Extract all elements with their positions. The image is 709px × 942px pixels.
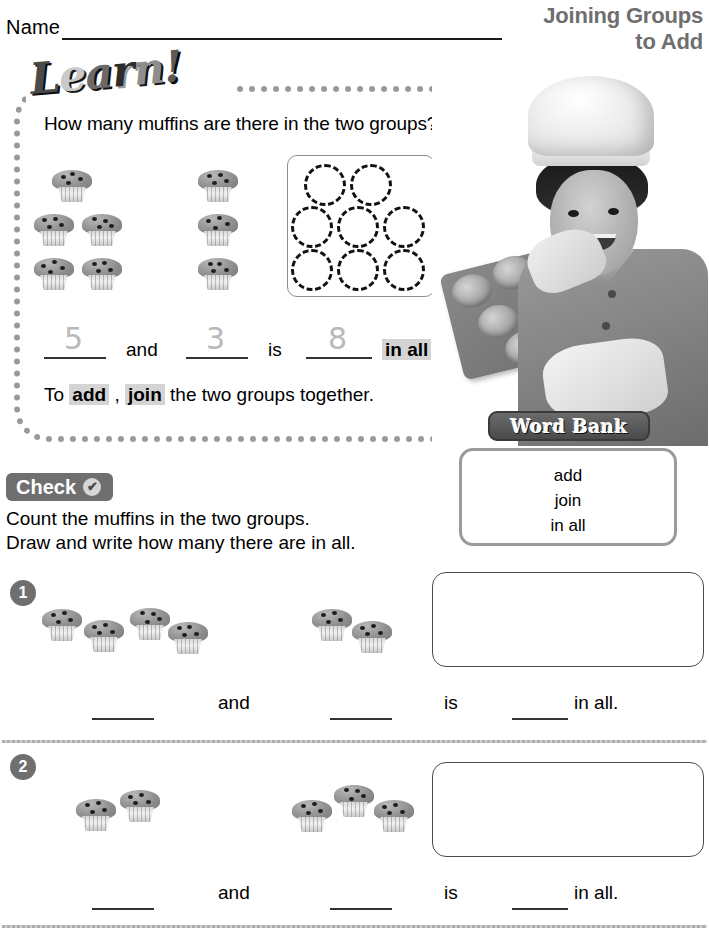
footer-divider [2,925,707,928]
sentence-comma: , [109,384,125,405]
exercise-1-blank-2[interactable] [330,690,392,720]
exercise-2-answer-box[interactable] [432,762,704,857]
word-bank-tab: Word Bank [488,411,650,441]
exercise-2-blank-1[interactable] [92,880,154,910]
check-instruction-line1: Count the muffins in the two groups. [6,508,310,530]
page-title-line1: Joining Groups [443,3,703,29]
section-divider [2,740,707,743]
exercise-number-badge: 1 [10,580,36,606]
dashed-circle-icon [383,206,425,248]
equation-and-label: and [126,339,158,361]
learn-question: How many muffins are there in the two gr… [44,113,437,135]
exercise-1-answer-box[interactable] [432,572,704,667]
muffin-icon [118,788,162,822]
muffin-icon [80,256,124,290]
exercise-2-blank-3[interactable] [512,880,568,910]
worksheet-page: Name Joining Groups to Add Learn! How ma… [0,0,709,942]
muffin-icon [372,798,416,832]
dashed-circle-icon [337,206,379,248]
exercise-1-blank-3[interactable] [512,690,568,720]
sentence-word-add: add [69,384,109,405]
muffin-icon [32,256,76,290]
dashed-circle-icon [383,249,425,291]
check-tab: Check ✔ [6,473,113,501]
muffin-icon [32,212,76,246]
traced-number-2: 3 [206,321,225,356]
page-title: Joining Groups to Add [443,3,703,54]
learn-badge: Learn! [26,52,231,108]
exercise-2-blank-2[interactable] [330,880,392,910]
muffin-icon [196,212,240,246]
muffin-icon [82,618,126,652]
exercise-2-in-all-label: in all. [574,882,618,904]
tenframe-box[interactable] [287,155,435,297]
dashed-circle-icon [304,164,346,206]
muffin-icon [166,620,210,654]
muffin-icon [332,783,376,817]
muffin-icon [196,256,240,290]
checkmark-icon: ✔ [83,478,101,496]
dashed-circle-icon [291,206,333,248]
exercise-1-in-all-label: in all. [574,692,618,714]
traced-number-3: 8 [328,321,347,356]
dashed-circle-icon [291,249,333,291]
muffin-icon [50,168,94,202]
muffin-icon [74,797,118,831]
sentence-word-join: join [125,384,165,405]
word-bank-item: join [462,488,674,513]
page-title-line2: to Add [443,29,703,55]
dashed-circle-icon [337,249,379,291]
exercise-1-is-label: is [444,692,458,714]
check-tab-label: Check [16,473,76,501]
equation-in-all-label: in all. [382,339,437,361]
check-instruction-line2: Draw and write how many there are in all… [6,532,356,554]
muffin-icon [290,798,334,832]
sentence-prefix: To [44,384,69,405]
muffin-icon [40,607,84,641]
learn-sentence: To add , join the two groups together. [44,384,374,406]
learn-equation-row: 5 and 3 is 8 in all. [44,325,444,365]
equation-is-label: is [268,339,282,361]
exercise-1-blank-1[interactable] [92,690,154,720]
exercise-2-is-label: is [444,882,458,904]
exercise-2-and-label: and [218,882,250,904]
muffin-icon [310,607,354,641]
exercise-1-and-label: and [218,692,250,714]
muffin-icon [80,212,124,246]
muffin-icon [350,619,394,653]
word-bank-item: add [462,463,674,488]
sentence-suffix: the two groups together. [165,384,374,405]
exercise-number-badge: 2 [10,754,36,780]
dashed-circle-icon [350,164,392,206]
boy-chef-photo [432,74,709,446]
name-write-line[interactable] [62,38,502,40]
name-label: Name [6,16,60,39]
word-bank-item: in all [462,513,674,538]
learn-badge-text: Learn! [28,41,184,104]
muffin-icon [196,168,240,202]
word-bank-box: add join in all [459,448,677,546]
traced-number-1: 5 [64,321,83,356]
